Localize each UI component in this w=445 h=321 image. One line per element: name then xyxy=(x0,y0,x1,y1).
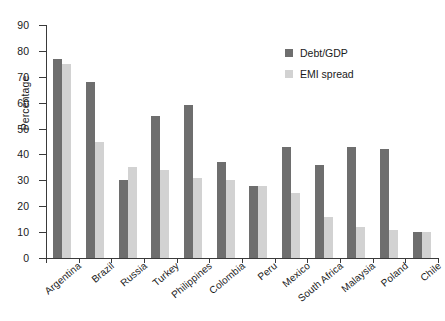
x-axis-label-peru: Peru xyxy=(256,260,280,282)
y-tick-label-80: 80 xyxy=(17,45,29,57)
legend-label-debt-gdp: Debt/GDP xyxy=(300,47,348,59)
bar-chile-debt-gdp xyxy=(413,232,422,258)
x-axis-label-text: Argentina xyxy=(43,260,84,297)
bar-south-africa-emi-spread xyxy=(324,217,333,258)
bar-mexico-debt-gdp xyxy=(282,147,291,258)
bar-group-argentina xyxy=(46,25,79,258)
y-tick-label-50: 50 xyxy=(17,123,29,135)
y-tick-30: 30 xyxy=(39,180,46,181)
y-tick-50: 50 xyxy=(39,129,46,130)
bar-peru-emi-spread xyxy=(258,186,267,258)
legend-swatch-debt-gdp xyxy=(285,49,293,57)
bar-chart: Percentage 0102030405060708090 Argentina… xyxy=(0,0,445,321)
bar-colombia-debt-gdp xyxy=(217,162,226,258)
bar-chile-emi-spread xyxy=(422,232,431,258)
bar-group-turkey xyxy=(144,25,177,258)
y-tick-label-30: 30 xyxy=(17,174,29,186)
legend-swatch-emi-spread xyxy=(285,70,293,78)
legend-item-debt-gdp: Debt/GDP xyxy=(285,47,354,59)
plot-area: 0102030405060708090 xyxy=(46,25,438,258)
bar-malaysia-emi-spread xyxy=(356,227,365,258)
bar-malaysia-debt-gdp xyxy=(347,147,356,258)
x-axis-label-malaysia: Malaysia xyxy=(339,260,377,294)
x-axis-label-text: Chile xyxy=(418,260,443,283)
bar-group-philippines xyxy=(177,25,210,258)
bar-russia-debt-gdp xyxy=(119,180,128,258)
y-tick-label-40: 40 xyxy=(17,148,29,160)
bar-colombia-emi-spread xyxy=(226,180,235,258)
bar-group-russia xyxy=(111,25,144,258)
bar-brazil-emi-spread xyxy=(95,142,104,259)
bar-turkey-emi-spread xyxy=(160,170,169,258)
y-tick-40: 40 xyxy=(39,154,46,155)
legend-label-emi-spread: EMI spread xyxy=(300,68,354,80)
x-axis-label-argentina: Argentina xyxy=(43,260,84,297)
bar-group-chile xyxy=(405,25,438,258)
y-tick-label-90: 90 xyxy=(17,19,29,31)
x-axis-label-chile: Chile xyxy=(418,260,443,283)
bar-philippines-debt-gdp xyxy=(184,105,193,258)
x-axis-label-text: Malaysia xyxy=(339,260,377,294)
bar-philippines-emi-spread xyxy=(193,178,202,258)
bar-peru-debt-gdp xyxy=(249,186,258,258)
y-tick-60: 60 xyxy=(39,103,46,104)
bar-south-africa-debt-gdp xyxy=(315,165,324,258)
bar-poland-debt-gdp xyxy=(380,149,389,258)
x-axis-label-text: Colombia xyxy=(207,260,247,296)
bar-group-brazil xyxy=(79,25,112,258)
bar-russia-emi-spread xyxy=(128,167,137,258)
y-tick-20: 20 xyxy=(39,206,46,207)
y-tick-label-70: 70 xyxy=(17,71,29,83)
bar-group-poland xyxy=(373,25,406,258)
x-axis-label-poland: Poland xyxy=(379,260,410,289)
y-tick-0: 0 xyxy=(39,258,46,259)
bar-groups xyxy=(46,25,438,258)
y-tick-label-0: 0 xyxy=(23,252,29,264)
x-axis-label-text: Peru xyxy=(256,260,280,282)
bar-poland-emi-spread xyxy=(389,230,398,258)
chart-legend: Debt/GDP EMI spread xyxy=(285,47,354,89)
y-tick-label-10: 10 xyxy=(17,226,29,238)
x-axis-label-text: Brazil xyxy=(89,260,116,285)
bar-mexico-emi-spread xyxy=(291,193,300,258)
x-axis-label-colombia: Colombia xyxy=(207,260,247,296)
x-axis-label-text: Russia xyxy=(118,260,149,288)
y-tick-label-60: 60 xyxy=(17,97,29,109)
y-tick-90: 90 xyxy=(39,25,46,26)
y-tick-70: 70 xyxy=(39,77,46,78)
x-axis-label-russia: Russia xyxy=(118,260,149,288)
bar-group-colombia xyxy=(209,25,242,258)
x-axis-label-brazil: Brazil xyxy=(89,260,116,285)
bar-argentina-debt-gdp xyxy=(53,59,62,258)
bar-argentina-emi-spread xyxy=(62,64,71,258)
y-tick-10: 10 xyxy=(39,232,46,233)
legend-item-emi-spread: EMI spread xyxy=(285,68,354,80)
bar-brazil-debt-gdp xyxy=(86,82,95,258)
bar-group-peru xyxy=(242,25,275,258)
bar-turkey-debt-gdp xyxy=(151,116,160,258)
x-axis-label-text: Poland xyxy=(379,260,410,289)
y-tick-80: 80 xyxy=(39,51,46,52)
x-axis-labels: ArgentinaBrazilRussiaTurkeyPhilippinesCo… xyxy=(46,260,438,320)
y-tick-label-20: 20 xyxy=(17,200,29,212)
